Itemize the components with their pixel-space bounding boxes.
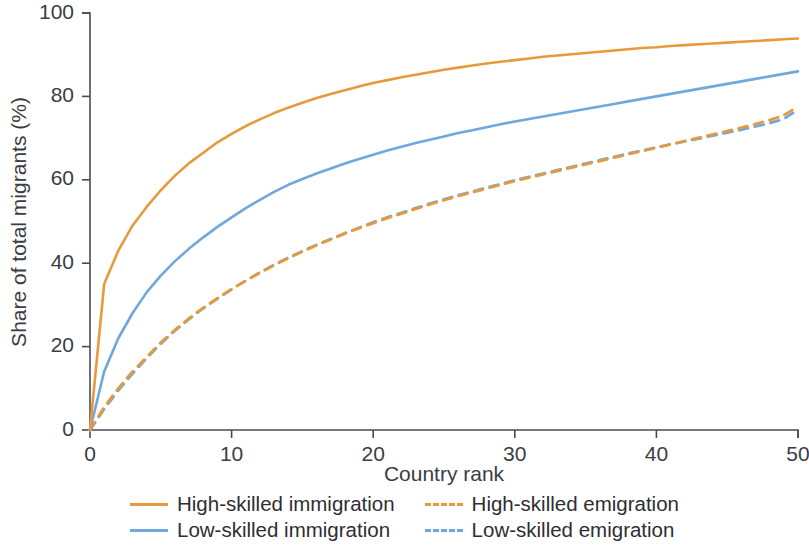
y-axis-ticks: 020406080100 [39, 0, 90, 440]
y-tick-label: 100 [39, 0, 74, 23]
y-tick-label: 20 [51, 333, 74, 356]
x-tick-label: 20 [362, 442, 385, 465]
legend-entry[interactable]: Low-skilled immigration [130, 519, 395, 542]
x-tick-label: 40 [645, 442, 668, 465]
legend-swatch-solid [130, 503, 168, 506]
series-line-high-skilled-immigration [90, 38, 798, 430]
y-tick-label: 80 [51, 83, 74, 106]
y-tick-label: 60 [51, 166, 74, 189]
chart-series-group [90, 38, 798, 430]
x-tick-label: 30 [503, 442, 526, 465]
series-line-high-skilled-emigration [90, 107, 798, 430]
line-chart-plot: 020406080100 01020304050 Country rank Sh… [0, 0, 809, 546]
legend-label: High-skilled emigration [472, 493, 679, 516]
legend-entry[interactable]: High-skilled immigration [130, 493, 395, 516]
legend-label: Low-skilled immigration [177, 519, 390, 542]
legend-swatch-dashed [425, 503, 463, 506]
y-tick-label: 40 [51, 250, 74, 273]
y-axis-title: Share of total migrants (%) [7, 97, 30, 347]
legend-swatch-solid [130, 529, 168, 532]
series-line-low-skilled-immigration [90, 71, 798, 430]
legend-entry[interactable]: Low-skilled emigration [425, 519, 679, 542]
legend-entry[interactable]: High-skilled emigration [425, 493, 679, 516]
legend-label: Low-skilled emigration [472, 519, 675, 542]
chart-figure: 020406080100 01020304050 Country rank Sh… [0, 0, 809, 546]
x-tick-label: 50 [786, 442, 809, 465]
legend-swatch-dashed [425, 529, 463, 532]
y-tick-label: 0 [62, 417, 74, 440]
legend-grid: High-skilled immigrationHigh-skilled emi… [130, 493, 679, 542]
x-axis-ticks: 01020304050 [84, 430, 809, 465]
x-tick-label: 0 [84, 442, 96, 465]
legend-label: High-skilled immigration [177, 493, 395, 516]
chart-legend: High-skilled immigrationHigh-skilled emi… [0, 493, 809, 542]
x-axis-title: Country rank [384, 462, 505, 485]
x-tick-label: 10 [220, 442, 243, 465]
